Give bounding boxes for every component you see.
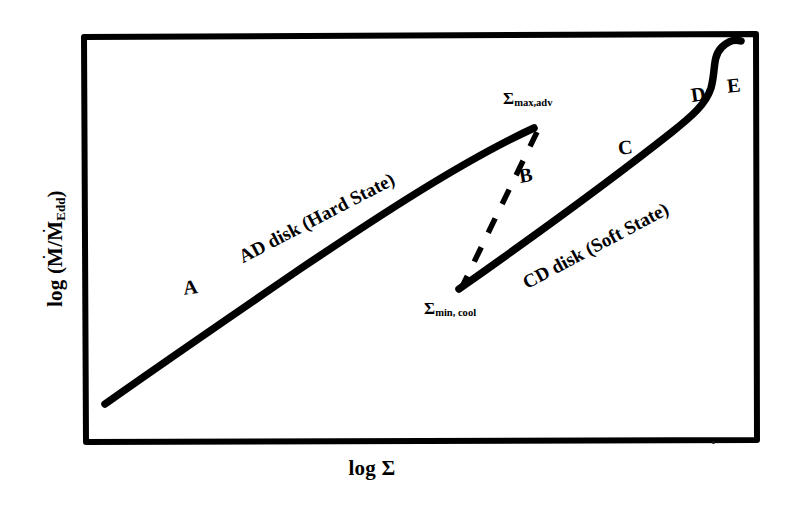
x-axis-label: log Σ [272, 458, 472, 479]
y-axis-label-prefix: log ( [43, 267, 67, 307]
sigma-min-subscript: min, cool [435, 307, 476, 318]
hard-state-branch-curve [105, 128, 534, 404]
point-label-a: A [182, 276, 199, 298]
sigma-min-symbol: Σ [424, 299, 435, 318]
sigma-min-cool-label: Σmin, cool [424, 300, 476, 318]
sigma-max-symbol: Σ [503, 89, 514, 108]
mdot-numerator: ˙M [45, 247, 66, 267]
plot-frame-border [84, 34, 757, 442]
point-label-c: C [617, 136, 633, 157]
overdot-denominator: ˙ [41, 228, 56, 233]
sigma-max-adv-label: Σmax,adv [503, 90, 552, 108]
point-label-e: E [726, 74, 741, 95]
point-label-d: D [690, 83, 707, 105]
s-curve-diagram [0, 0, 793, 516]
figure-root: log (˙M/˙MEdd) log Σ Σmax,adv Σmin, cool… [0, 0, 793, 516]
sigma-max-subscript: max,adv [514, 97, 552, 108]
edd-subscript: Edd [53, 198, 68, 221]
y-axis-label: log (˙M/˙MEdd) [45, 149, 66, 349]
y-axis-label-suffix: ) [43, 190, 67, 197]
scan-speck [712, 441, 715, 444]
overdot-numerator: ˙ [41, 254, 56, 259]
mdot-denominator: ˙M [45, 221, 66, 241]
